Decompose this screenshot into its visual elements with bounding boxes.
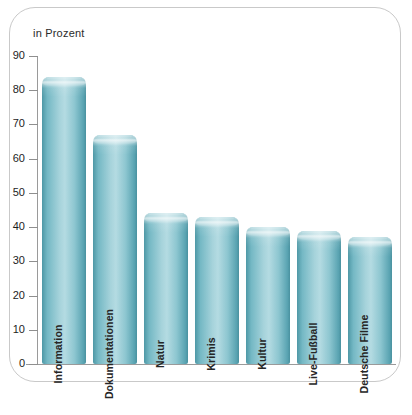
bar-label: Dokumentationen — [103, 309, 115, 399]
y-tick-mark — [29, 193, 38, 194]
bar[interactable]: Natur — [144, 213, 188, 364]
y-tick-label: 60 — [0, 152, 25, 164]
y-tick-mark — [29, 296, 38, 297]
y-tick-label: 80 — [0, 83, 25, 95]
bar-label: Krimis — [205, 337, 217, 370]
y-tick-label: 50 — [0, 186, 25, 198]
bar[interactable]: Kultur — [246, 227, 290, 364]
y-tick-mark — [29, 56, 38, 57]
bar[interactable]: Deutsche Filme — [348, 237, 392, 364]
bar-group[interactable]: Live-Fußball — [297, 231, 341, 364]
bar-group[interactable]: Kultur — [246, 227, 290, 364]
bar[interactable]: Live-Fußball — [297, 231, 341, 364]
bar-group[interactable]: Natur — [144, 213, 188, 364]
bar-label: Live-Fußball — [307, 322, 319, 385]
y-tick-mark — [29, 159, 38, 160]
y-tick-mark — [29, 124, 38, 125]
bar-group[interactable]: Dokumentationen — [93, 135, 137, 364]
y-tick-label: 40 — [0, 220, 25, 232]
y-tick-label: 90 — [0, 49, 25, 61]
bar[interactable]: Krimis — [195, 217, 239, 364]
bar-group[interactable]: Deutsche Filme — [348, 237, 392, 364]
y-tick-label: 0 — [0, 357, 25, 369]
axis-title: in Prozent — [33, 27, 85, 39]
y-tick-mark — [29, 227, 38, 228]
y-tick-mark — [29, 90, 38, 91]
bar[interactable]: Information — [42, 77, 86, 364]
bar-series: InformationDokumentationenNaturKrimisKul… — [38, 56, 396, 364]
bar-group[interactable]: Krimis — [195, 217, 239, 364]
bar-label: Information — [52, 325, 64, 384]
y-tick-mark — [29, 330, 38, 331]
y-tick-label: 30 — [0, 254, 25, 266]
bar-group[interactable]: Information — [42, 77, 86, 364]
y-tick-mark — [29, 364, 38, 365]
bar[interactable]: Dokumentationen — [93, 135, 137, 364]
bar-chart: in Prozent 0102030405060708090 Informati… — [0, 0, 412, 415]
y-tick-label: 20 — [0, 289, 25, 301]
bar-label: Natur — [154, 340, 166, 368]
y-tick-label: 10 — [0, 323, 25, 335]
bar-label: Deutsche Filme — [358, 314, 370, 393]
bar-label: Kultur — [256, 338, 268, 370]
y-tick-mark — [29, 261, 38, 262]
y-tick-label: 70 — [0, 117, 25, 129]
